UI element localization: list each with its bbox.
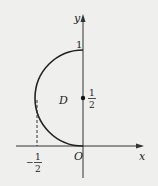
center-point — [81, 96, 85, 100]
y-axis-label: y — [73, 12, 81, 25]
x-tick-half-numerator: 1 — [35, 152, 41, 162]
x-axis-arrow-icon — [136, 144, 144, 149]
x-tick-neg-sign: − — [26, 157, 34, 167]
y-axis-arrow-icon — [81, 14, 86, 22]
y-tick-1: 1 — [76, 39, 82, 50]
y-tick-half-denominator: 2 — [89, 100, 95, 110]
x-tick-half-denominator: 2 — [35, 164, 41, 174]
region-label: D — [58, 94, 68, 107]
x-axis-label: x — [139, 150, 146, 163]
origin-label: O — [74, 150, 83, 163]
y-tick-half-numerator: 1 — [89, 88, 95, 98]
semicircle-diagram: y x O D 1 1 2 − 1 2 — [0, 0, 158, 186]
